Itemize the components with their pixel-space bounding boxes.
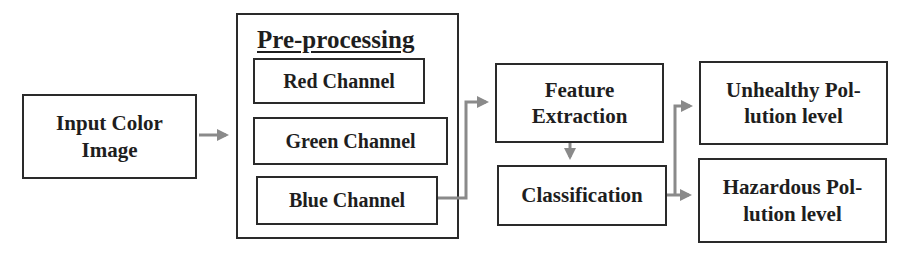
input-color-image-box: Input Color Image [22, 94, 197, 179]
hazardous-line2: lution level [723, 201, 862, 227]
unhealthy-pollution-box: Unhealthy Pol- lution level [699, 61, 888, 145]
hazardous-pollution-box: Hazardous Pol- lution level [698, 158, 887, 243]
unhealthy-line1: Unhealthy Pol- [726, 77, 861, 103]
preprocessing-title: Pre-processing [257, 26, 414, 54]
red-channel-label: Red Channel [283, 69, 395, 94]
arrow-classification-to-unhealthy [675, 106, 690, 195]
blue-channel-label: Blue Channel [289, 188, 405, 213]
input-label-line2: Image [56, 137, 163, 163]
input-label-line1: Input Color [56, 110, 163, 136]
unhealthy-line2: lution level [726, 103, 861, 129]
blue-channel-box: Blue Channel [256, 176, 438, 225]
classification-box: Classification [497, 165, 667, 226]
green-channel-box: Green Channel [253, 117, 448, 165]
feature-extraction-line1: Feature [532, 77, 628, 103]
hazardous-line1: Hazardous Pol- [723, 174, 862, 200]
feature-extraction-line2: Extraction [532, 103, 628, 129]
red-channel-box: Red Channel [253, 58, 425, 104]
classification-label: Classification [521, 182, 642, 208]
green-channel-label: Green Channel [285, 129, 415, 154]
feature-extraction-box: Feature Extraction [495, 63, 664, 143]
